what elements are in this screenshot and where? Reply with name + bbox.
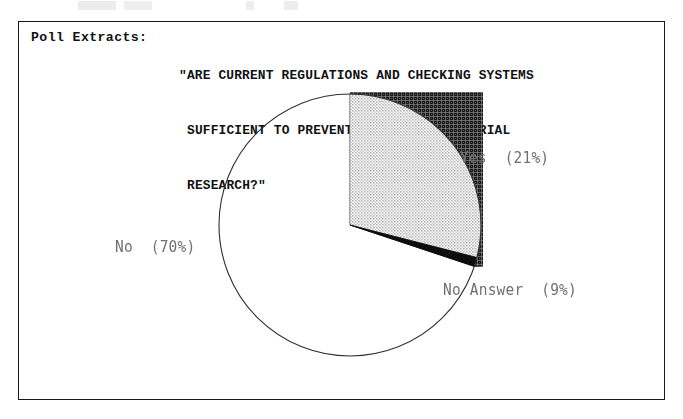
pie-chart: [217, 92, 483, 358]
pie-label-yes: Yes (21%): [460, 150, 549, 167]
pie-label-no-answer: No Answer (9%): [443, 282, 577, 299]
pie-label-no: No (70%): [115, 239, 195, 256]
scan-artifact: [78, 1, 338, 10]
pie-chart-area: Yes (21%) No (70%) No Answer (9%): [19, 22, 666, 401]
figure-frame: Poll Extracts: "ARE CURRENT REGULATIONS …: [18, 21, 665, 400]
poll-extract-figure: Poll Extracts: "ARE CURRENT REGULATIONS …: [0, 0, 683, 419]
